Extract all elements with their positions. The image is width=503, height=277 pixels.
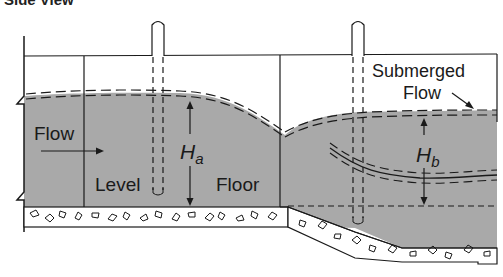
flume-side-view-diagram: Flow Level Floor Submerged Flow Ha Hb	[0, 0, 503, 277]
top-wall-line	[24, 54, 497, 56]
level-label: Level	[95, 174, 140, 195]
submerged-label: Submerged	[372, 61, 465, 81]
flow-label: Flow	[34, 123, 74, 144]
submerged-flow-pointer-head	[465, 101, 474, 109]
left-break-edge	[17, 36, 24, 232]
submerged-flow-label: Flow	[403, 83, 442, 103]
floor-concrete	[24, 207, 288, 227]
floor-label: Floor	[216, 174, 260, 195]
